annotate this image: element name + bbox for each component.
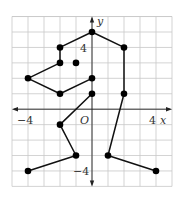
- x-axis-left-arrow-icon: [12, 107, 18, 111]
- origin-label: O: [80, 114, 89, 127]
- plotted-point: [25, 168, 32, 175]
- y-axis-label: y: [96, 15, 104, 28]
- x-tick-4: 4: [149, 114, 156, 127]
- isolated-point: [73, 60, 80, 67]
- plotted-point: [89, 75, 96, 82]
- plotted-point: [57, 44, 64, 51]
- y-tick-neg4: −4: [73, 165, 89, 178]
- y-axis-up-arrow-icon: [90, 17, 94, 23]
- plotted-point: [73, 152, 80, 159]
- x-axis-right-arrow-icon: [166, 107, 172, 111]
- plotted-point: [89, 29, 96, 36]
- y-axis-down-arrow-icon: [90, 180, 94, 186]
- plotted-point: [121, 90, 128, 97]
- plotted-point: [153, 168, 160, 175]
- plotted-point: [25, 75, 32, 82]
- plotted-point: [57, 121, 64, 128]
- coordinate-plane: −4 4 x O y 4 −4: [0, 0, 180, 198]
- x-tick-neg4: −4: [17, 114, 33, 127]
- plotted-point: [89, 90, 96, 97]
- axes: [12, 17, 172, 187]
- x-axis-label: x: [160, 114, 167, 127]
- y-tick-4: 4: [80, 42, 87, 55]
- plotted-point: [105, 152, 112, 159]
- plotted-point: [57, 90, 64, 97]
- plotted-point: [121, 44, 128, 51]
- plotted-point: [57, 60, 64, 67]
